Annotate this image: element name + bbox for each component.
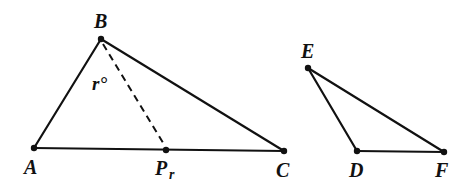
vertex-C-dot (281, 148, 287, 154)
segment-AB (34, 39, 101, 148)
angle-label-r-degrees: r° (92, 73, 107, 94)
label-F: F (434, 159, 449, 181)
segment-DF (357, 151, 444, 152)
vertex-D-dot (354, 148, 360, 154)
label-E: E (300, 40, 314, 62)
label-P-subscript: r (169, 167, 175, 182)
vertex-E-dot (305, 65, 311, 71)
segment-BC (101, 39, 284, 151)
triangle-diagram: A B C E D F P r r° (0, 0, 469, 192)
vertex-B-dot (98, 36, 104, 42)
point-P-dot (163, 147, 169, 153)
segment-ED (308, 68, 357, 151)
label-P: P (154, 157, 168, 179)
label-C: C (276, 159, 290, 181)
label-A: A (22, 156, 37, 178)
label-D: D (348, 159, 363, 181)
vertex-A-dot (31, 145, 37, 151)
vertex-F-dot (441, 149, 447, 155)
label-B: B (93, 10, 107, 32)
segment-EF (308, 68, 444, 152)
segment-AC (34, 148, 284, 151)
